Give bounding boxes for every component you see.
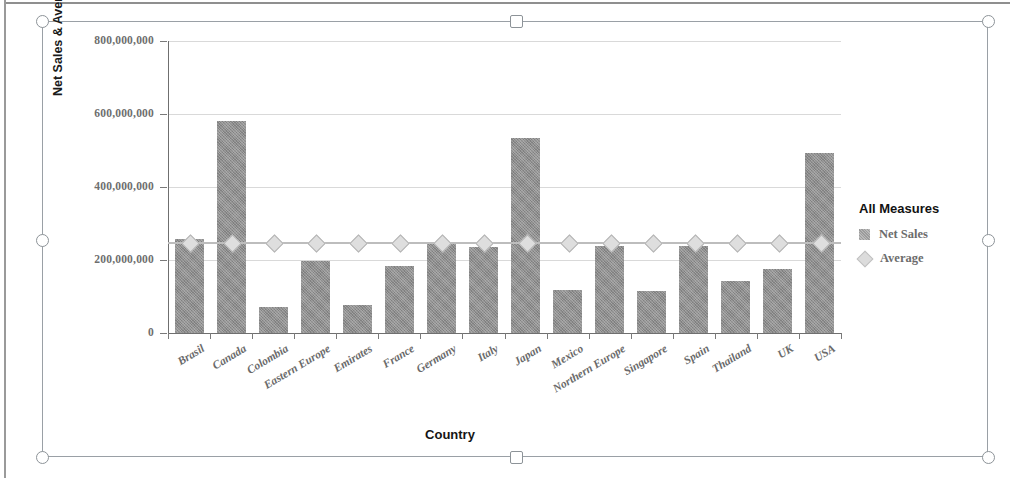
selection-handle-middle-right[interactable]: [982, 234, 995, 247]
legend-item-average[interactable]: Average: [859, 251, 979, 266]
bar-chart[interactable]: Net Sales & Average 0200,000,000400,000,…: [0, 0, 1010, 478]
bar[interactable]: [259, 307, 288, 333]
average-marker[interactable]: [644, 234, 662, 252]
x-axis-title-text: Country: [425, 427, 475, 442]
x-axis-tick: [841, 333, 842, 339]
average-marker[interactable]: [265, 234, 283, 252]
bar[interactable]: [175, 239, 204, 333]
average-marker[interactable]: [770, 234, 788, 252]
selection-handle-bottom-left[interactable]: [36, 451, 49, 464]
x-axis-tick: [589, 333, 590, 339]
x-axis-tick: [462, 333, 463, 339]
bar[interactable]: [637, 291, 666, 333]
average-marker[interactable]: [560, 234, 578, 252]
bar[interactable]: [595, 246, 624, 333]
bar[interactable]: [217, 121, 246, 333]
y-axis-tick-label: 400,000,000: [60, 180, 154, 192]
x-axis-tick: [547, 333, 548, 339]
legend-item-net-sales[interactable]: Net Sales: [859, 227, 979, 242]
x-axis-tick: [294, 333, 295, 339]
x-axis-title: Country: [0, 427, 1010, 442]
chart-legend: All Measures Net Sales Average: [859, 201, 979, 275]
y-axis-tick-label: 200,000,000: [60, 253, 154, 265]
average-marker[interactable]: [349, 234, 367, 252]
x-axis-tick: [336, 333, 337, 339]
x-axis-tick: [378, 333, 379, 339]
selection-handle-bottom-right[interactable]: [982, 451, 995, 464]
selection-handle-top-right[interactable]: [982, 15, 995, 28]
x-axis-tick: [631, 333, 632, 339]
x-axis-tick: [420, 333, 421, 339]
x-axis-tick: [757, 333, 758, 339]
average-marker[interactable]: [307, 234, 325, 252]
legend-title: All Measures: [859, 201, 979, 216]
y-axis-tick-label: 800,000,000: [60, 34, 154, 46]
x-axis-tick: [715, 333, 716, 339]
bar[interactable]: [343, 305, 372, 333]
bar[interactable]: [553, 290, 582, 333]
y-axis-tick: [160, 114, 167, 115]
average-swatch-icon: [857, 250, 874, 267]
legend-item-label: Average: [880, 251, 924, 266]
average-marker[interactable]: [391, 234, 409, 252]
x-axis-tick: [799, 333, 800, 339]
x-axis-tick: [252, 333, 253, 339]
y-axis-tick: [160, 187, 167, 188]
bar[interactable]: [427, 244, 456, 333]
selection-handle-bottom-center[interactable]: [510, 451, 523, 464]
bar[interactable]: [469, 247, 498, 333]
selection-handle-top-center[interactable]: [510, 15, 523, 28]
bar[interactable]: [385, 266, 414, 333]
bar[interactable]: [763, 269, 792, 333]
bar[interactable]: [679, 246, 708, 333]
y-axis-tick: [160, 260, 167, 261]
y-axis-title: Net Sales & Average: [51, 76, 65, 96]
y-axis-tick-label: 0: [60, 326, 154, 338]
net-sales-swatch-icon: [859, 229, 870, 240]
bar[interactable]: [301, 261, 330, 333]
x-axis-tick: [168, 333, 169, 339]
x-axis-tick: [505, 333, 506, 339]
x-axis-tick: [210, 333, 211, 339]
bar[interactable]: [721, 281, 750, 333]
y-axis-tick: [160, 333, 167, 334]
selection-handle-middle-left[interactable]: [36, 234, 49, 247]
average-marker[interactable]: [728, 234, 746, 252]
x-axis-tick: [673, 333, 674, 339]
y-axis-tick-label: 600,000,000: [60, 107, 154, 119]
selection-handle-top-left[interactable]: [36, 15, 49, 28]
plot-area[interactable]: [168, 41, 841, 333]
y-axis-tick: [160, 41, 167, 42]
legend-item-label: Net Sales: [879, 227, 928, 242]
